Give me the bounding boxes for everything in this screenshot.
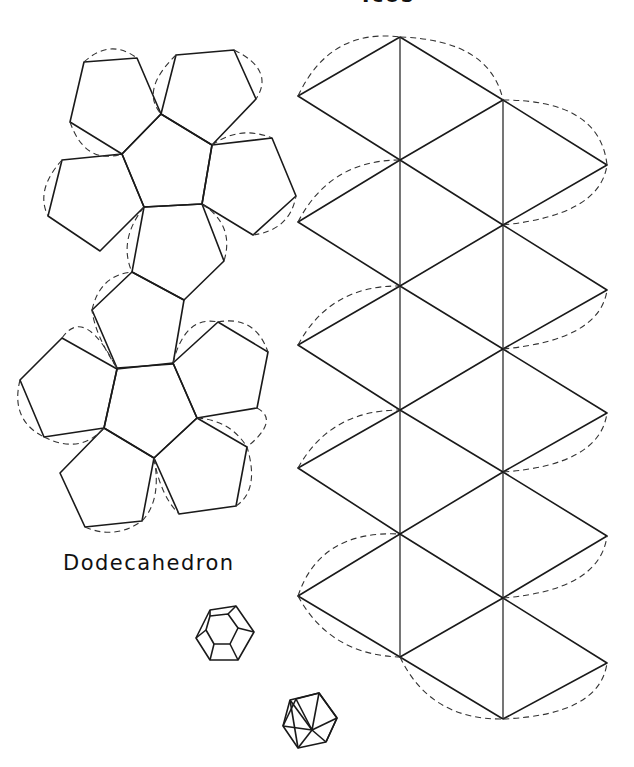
pentagon-face xyxy=(173,322,268,418)
pentagon-face xyxy=(70,58,161,154)
icosahedron-title: Icos xyxy=(362,0,415,7)
pentagon-face xyxy=(104,363,197,458)
pentagon-face xyxy=(20,338,117,437)
pentagon-face xyxy=(60,428,154,527)
pentagon-face xyxy=(48,154,144,251)
nets-drawing xyxy=(0,0,634,767)
dodecahedron-model-icon xyxy=(196,606,254,660)
pentagon-face xyxy=(132,204,224,300)
pentagon-face xyxy=(92,272,184,368)
pentagon-face xyxy=(161,50,256,145)
dodecahedron-title: Dodecahedron xyxy=(63,551,235,575)
dodecahedron-net xyxy=(18,49,296,532)
icosahedron-net xyxy=(298,36,607,719)
pentagon-face xyxy=(202,138,296,235)
pentagon-face xyxy=(122,114,212,207)
icosahedron-model-icon xyxy=(283,693,337,748)
